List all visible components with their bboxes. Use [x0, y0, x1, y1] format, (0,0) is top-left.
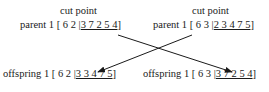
crossover-arrows: [0, 0, 269, 92]
arrow-left-parent-to-right-offspring: [118, 35, 232, 72]
arrow-right-parent-to-left-offspring: [98, 35, 192, 72]
